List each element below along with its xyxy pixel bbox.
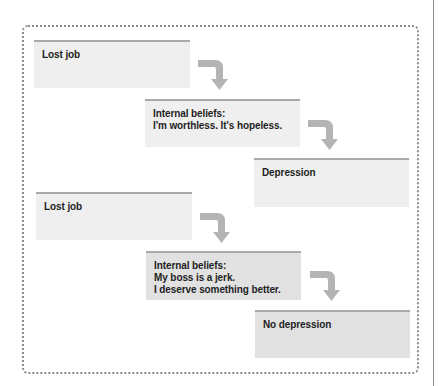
outcome-box-1: Depression xyxy=(254,158,409,207)
outcome-label: No depression xyxy=(263,319,402,331)
event-label: Lost job xyxy=(42,49,182,61)
outcome-box-2: No depression xyxy=(255,310,410,358)
event-label: Lost job xyxy=(44,201,184,213)
beliefs-line: I'm worthless. It's hopeless. xyxy=(153,120,292,132)
bent-down-arrow-icon xyxy=(309,270,341,302)
beliefs-box-2: Internal beliefs: My boss is a jerk. I d… xyxy=(146,251,301,300)
beliefs-line: My boss is a jerk. xyxy=(154,272,293,284)
beliefs-heading: Internal beliefs: xyxy=(153,108,292,120)
page-edge-rule xyxy=(433,0,434,386)
bent-down-arrow-icon xyxy=(199,212,231,244)
beliefs-line: I deserve something better. xyxy=(154,284,293,296)
bent-down-arrow-icon xyxy=(307,119,339,151)
event-box-1: Lost job xyxy=(34,40,190,88)
outcome-label: Depression xyxy=(262,167,401,179)
bent-down-arrow-icon xyxy=(197,59,229,91)
event-box-2: Lost job xyxy=(36,192,192,240)
beliefs-heading: Internal beliefs: xyxy=(154,260,293,272)
beliefs-box-1: Internal beliefs: I'm worthless. It's ho… xyxy=(145,99,300,147)
